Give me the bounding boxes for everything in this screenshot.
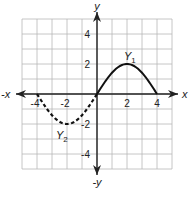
x-tick-label: -4 [31, 98, 40, 109]
x-tick-label: 2 [124, 98, 130, 109]
x-tick-label: -2 [61, 98, 70, 109]
y-tick-label: 2 [84, 59, 90, 70]
x-axis-label: x [181, 88, 188, 100]
y-tick-label: -2 [81, 119, 90, 130]
y-axis-label: y [93, 0, 101, 12]
series-label-y2: Y2 [56, 129, 68, 144]
x-tick-label: 4 [154, 98, 160, 109]
y-tick-label: -4 [81, 149, 90, 160]
graph: -4-22442-2-4x-xy-yY1Y2 [0, 0, 189, 197]
neg-x-axis-label: -x [1, 88, 11, 100]
y-tick-label: 4 [84, 29, 90, 40]
series-label-y1: Y1 [124, 50, 136, 65]
neg-y-axis-label: -y [92, 176, 103, 188]
